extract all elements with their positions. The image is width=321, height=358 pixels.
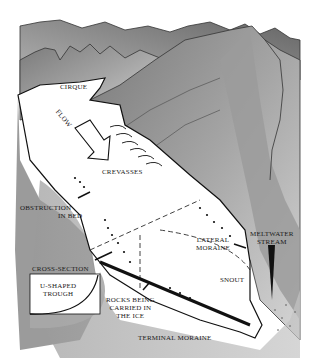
label-snout: SNOUT bbox=[220, 276, 244, 284]
label-meltwater-stream: MELTWATER STREAM bbox=[250, 230, 294, 246]
label-meltwater-line1: MELTWATER bbox=[250, 230, 294, 238]
label-obstruction-line2: IN BED bbox=[20, 212, 82, 220]
label-lateral-line2: MORAINE bbox=[196, 244, 230, 252]
label-cirque: CIRQUE bbox=[60, 83, 87, 91]
label-rocks-carried: ROCKS BEING CARRIED IN THE ICE bbox=[106, 296, 155, 320]
label-trough-line2: TROUGH bbox=[40, 290, 76, 298]
label-obstruction: OBSTRUCTION IN BED bbox=[20, 204, 82, 220]
label-crevasses: CREVASSES bbox=[102, 168, 143, 176]
label-obstruction-line1: OBSTRUCTION bbox=[20, 204, 82, 212]
label-lateral-line1: LATERAL bbox=[196, 236, 230, 244]
label-cross-section: CROSS-SECTION bbox=[32, 265, 89, 273]
label-u-shaped-trough: U-SHAPED TROUGH bbox=[40, 282, 76, 298]
label-trough-line1: U-SHAPED bbox=[40, 282, 76, 290]
label-rocks-line2: CARRIED IN bbox=[106, 304, 155, 312]
glacier-diagram bbox=[0, 0, 321, 358]
label-rocks-line3: THE ICE bbox=[106, 312, 155, 320]
label-lateral-moraine: LATERAL MORAINE bbox=[196, 236, 230, 252]
label-meltwater-line2: STREAM bbox=[250, 238, 294, 246]
label-terminal-moraine: TERMINAL MORAINE bbox=[138, 334, 212, 342]
label-rocks-line1: ROCKS BEING bbox=[106, 296, 155, 304]
